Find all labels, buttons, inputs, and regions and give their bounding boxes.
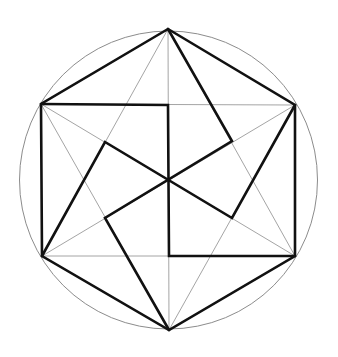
geometric-diagram: [0, 0, 338, 357]
